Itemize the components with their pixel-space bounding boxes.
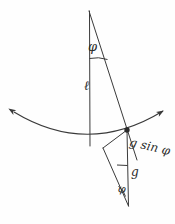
pendulum-diagram: φ ℓ g sin φ g φ xyxy=(0,0,175,224)
swing-trajectory-arc xyxy=(14,111,163,134)
pendulum-bob-point xyxy=(124,127,129,132)
force-triangle-hypotenuse xyxy=(103,148,129,206)
gravity-label: g xyxy=(131,166,139,178)
diagram-canvas xyxy=(0,0,175,224)
angle-phi-top-label: φ xyxy=(88,40,97,53)
angle-phi-bottom-label: φ xyxy=(117,183,126,195)
component-tick-mark xyxy=(117,165,128,166)
gravity-vector-line xyxy=(127,130,129,206)
pendulum-length-label: ℓ xyxy=(84,79,89,92)
vertical-reference-line xyxy=(90,11,91,146)
